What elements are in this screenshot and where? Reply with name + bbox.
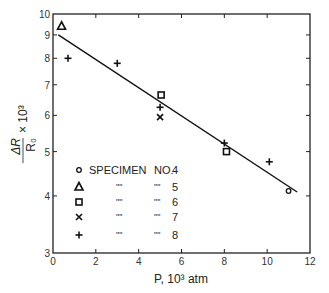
legend-triangle-icon bbox=[75, 183, 83, 191]
legend-ditto-mark: "" bbox=[116, 212, 122, 222]
plot-frame bbox=[53, 14, 310, 253]
legend-ditto-mark: "" bbox=[154, 212, 160, 222]
triangle-marker-icon bbox=[58, 22, 66, 30]
x-tick-label: 6 bbox=[179, 256, 185, 267]
x-tick-label: 8 bbox=[222, 256, 228, 267]
legend-header-specimen: SPECIMEN bbox=[89, 164, 147, 176]
x-tick-label: 0 bbox=[50, 256, 56, 267]
chart-svg: 024681012 345678910 SPECIMENNO.4""""5"""… bbox=[0, 0, 329, 293]
y-tick-label: 4 bbox=[44, 191, 50, 202]
y-tick-label: 9 bbox=[44, 30, 50, 41]
x-tick-label: 12 bbox=[304, 256, 316, 267]
legend-ditto-mark: "" bbox=[116, 197, 122, 207]
legend: SPECIMENNO.4""""5""""6""""7""""8 bbox=[75, 164, 178, 241]
legend-specimen-number: 8 bbox=[172, 229, 178, 241]
square-marker-icon bbox=[223, 149, 229, 155]
legend-plus-icon bbox=[76, 232, 83, 239]
y-tick-label: 6 bbox=[44, 110, 50, 121]
plus-marker-icon bbox=[114, 60, 121, 67]
legend-header-no: NO. bbox=[154, 164, 174, 176]
x-marker-icon bbox=[157, 114, 163, 120]
legend-ditto-mark: "" bbox=[116, 230, 122, 240]
legend-specimen-number: 7 bbox=[172, 211, 178, 223]
legend-ditto-mark: "" bbox=[154, 182, 160, 192]
x-axis-ticks: 024681012 bbox=[50, 14, 316, 267]
y-axis-denominator: R₀ bbox=[24, 138, 38, 152]
y-tick-label: 7 bbox=[44, 80, 50, 91]
legend-ditto-mark: "" bbox=[116, 182, 122, 192]
plus-marker-icon bbox=[64, 55, 71, 62]
legend-x-icon bbox=[76, 214, 82, 220]
x-tick-label: 2 bbox=[93, 256, 99, 267]
legend-ditto-mark: "" bbox=[154, 197, 160, 207]
x-tick-label: 4 bbox=[136, 256, 142, 267]
y-tick-label: 10 bbox=[39, 9, 51, 20]
y-tick-label: 3 bbox=[44, 248, 50, 259]
legend-ditto-mark: "" bbox=[154, 230, 160, 240]
square-marker-icon bbox=[158, 92, 164, 98]
y-tick-label: 5 bbox=[44, 147, 50, 158]
y-axis-multiplier: × 10³ bbox=[16, 105, 30, 133]
legend-square-icon bbox=[76, 199, 82, 205]
y-tick-label: 8 bbox=[44, 53, 50, 64]
y-axis-numerator: ΔR bbox=[9, 138, 23, 156]
plus-marker-icon bbox=[157, 104, 164, 111]
y-axis-title: ΔR R₀ × 10³ bbox=[9, 105, 38, 163]
legend-specimen-number: 6 bbox=[172, 196, 178, 208]
legend-specimen-number: 4 bbox=[172, 164, 178, 176]
circle-marker-icon bbox=[286, 189, 291, 194]
x-axis-title: P, 10³ atm bbox=[154, 272, 208, 286]
plus-marker-icon bbox=[266, 158, 273, 165]
legend-circle-icon bbox=[77, 168, 82, 173]
x-tick-label: 10 bbox=[262, 256, 274, 267]
legend-specimen-number: 5 bbox=[172, 181, 178, 193]
